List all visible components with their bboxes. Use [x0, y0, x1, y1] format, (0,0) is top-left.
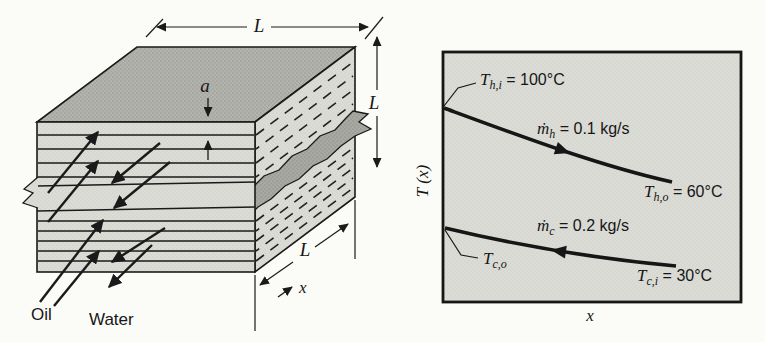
front-face	[23, 122, 255, 272]
figure-canvas: a L L L x Oil Water	[0, 0, 765, 342]
plate-stack-diagram: a L L L x Oil Water	[23, 15, 383, 331]
temperature-plot: Th,i = 100°C ṁh = 0.1 kg/s Th,o = 60°C ṁ…	[413, 52, 741, 325]
oil-label: Oil	[31, 305, 52, 324]
x-direction-arrow	[278, 287, 292, 297]
height-dim-label: L	[368, 92, 380, 113]
depth-dim-label: L	[299, 239, 311, 260]
dim-tick	[365, 17, 383, 39]
front-break-tab	[23, 177, 38, 208]
heat-exchanger-figure: a L L L x Oil Water	[0, 0, 765, 342]
width-dim-label: L	[253, 15, 265, 36]
dim-tick	[146, 19, 163, 37]
y-axis-label: T (x)	[413, 165, 432, 198]
x-direction-label: x	[298, 278, 307, 297]
dim-line	[315, 224, 348, 247]
width-dimension	[146, 17, 383, 39]
water-label: Water	[89, 310, 134, 329]
x-axis-label: x	[585, 306, 594, 325]
plate-spacing-label: a	[200, 75, 210, 96]
